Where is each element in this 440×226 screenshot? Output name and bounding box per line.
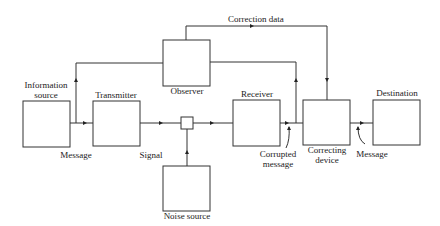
arrow-up-icon bbox=[185, 150, 189, 154]
block-correcting-device: Correcting device bbox=[303, 100, 350, 165]
information-source-label-1: Information bbox=[25, 80, 68, 90]
arrow-right-icon bbox=[250, 24, 254, 28]
edge-label-corrupted-1: Corrupted bbox=[260, 149, 297, 159]
arrow-down-icon bbox=[325, 78, 329, 82]
arrow-up-icon bbox=[74, 78, 78, 82]
correcting-device-label-1: Correcting bbox=[308, 145, 347, 155]
arrow-right-icon bbox=[83, 121, 87, 125]
transmitter-label: Transmitter bbox=[95, 90, 137, 100]
arrow-right-icon bbox=[360, 121, 364, 125]
arrow-up-icon bbox=[287, 126, 291, 130]
receiver-label: Receiver bbox=[241, 89, 273, 99]
arrow-right-icon bbox=[159, 121, 163, 125]
edge-label-message-out: Message bbox=[356, 149, 388, 159]
summing-junction bbox=[181, 117, 193, 129]
callout-corrupted-message bbox=[286, 127, 289, 148]
correcting-device-label-2: device bbox=[315, 155, 338, 165]
block-noise-source: Noise source bbox=[163, 166, 210, 221]
observer-label: Observer bbox=[171, 86, 204, 96]
edge-label-signal: Signal bbox=[139, 150, 163, 160]
noise-source-label: Noise source bbox=[164, 211, 211, 221]
edge-label-correction-data: Correction data bbox=[228, 14, 284, 24]
arrow-up-icon bbox=[294, 78, 298, 82]
block-receiver: Receiver bbox=[233, 89, 280, 146]
communication-diagram: Information source Transmitter Observer … bbox=[0, 0, 440, 226]
arrow-right-icon bbox=[285, 121, 289, 125]
edge-label-corrupted-2: message bbox=[263, 159, 294, 169]
information-source-label-2: source bbox=[34, 90, 58, 100]
arrow-up-icon bbox=[356, 126, 360, 130]
edge-label-message-in: Message bbox=[60, 150, 92, 160]
arrow-right-icon bbox=[210, 121, 214, 125]
destination-label: Destination bbox=[376, 88, 418, 98]
block-observer: Observer bbox=[163, 40, 210, 96]
block-information-source: Information source bbox=[23, 80, 70, 147]
block-transmitter: Transmitter bbox=[93, 90, 140, 146]
block-destination: Destination bbox=[373, 88, 420, 145]
